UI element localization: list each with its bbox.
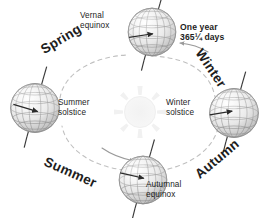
winter-solstice-label-line1: Winter [166,98,190,107]
summer-solstice-globe [11,67,60,148]
diagram-graphics [0,0,272,218]
autumnal-equinox-globe [119,140,167,218]
summer-solstice-label-line2: solstice [58,108,86,117]
vernal-equinox-label-line1: Vernal [80,11,104,20]
vernal-equinox-label-line2: equinox [80,21,109,30]
autumnal-equinox-label-line1: Autumnal [146,180,181,189]
vernal-equinox-globe [128,0,176,71]
one-year-label: One year365¼ days [180,22,224,42]
summer-solstice-label: Summersolstice [58,98,90,117]
winter-solstice-label-line2: solstice [166,108,194,117]
sun-icon [114,86,166,138]
winter-solstice-label: Wintersolstice [166,98,194,117]
seasons-orbit-diagram: Vernalequinox One year365¼ days Summerso… [0,0,272,218]
autumnal-equinox-label: Autumnalequinox [146,180,181,199]
vernal-equinox-label: Vernalequinox [80,11,109,30]
autumnal-equinox-label-line2: equinox [146,190,175,199]
one-year-label-line2: 365¼ days [180,32,224,42]
summer-solstice-label-line1: Summer [58,98,90,107]
one-year-label-line1: One year [180,22,218,32]
